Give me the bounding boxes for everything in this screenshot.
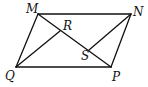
side-qm — [16, 14, 38, 67]
point-label-q: Q — [5, 69, 15, 83]
parallelogram-diagram: MNPQRS — [0, 0, 148, 87]
point-label-s: S — [81, 49, 89, 63]
point-label-m: M — [25, 2, 39, 16]
segment-qr — [16, 31, 60, 67]
point-label-r: R — [62, 19, 72, 33]
segments — [16, 14, 131, 67]
point-label-n: N — [132, 5, 144, 19]
point-label-p: P — [111, 70, 121, 84]
